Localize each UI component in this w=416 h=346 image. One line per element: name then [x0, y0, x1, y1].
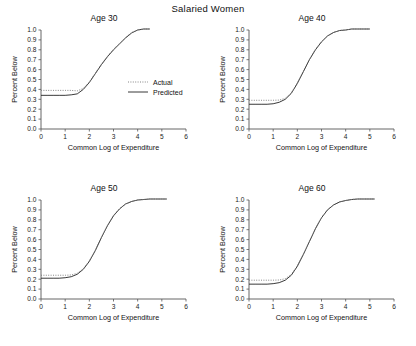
y-tick-label: 0.3	[27, 96, 36, 103]
y-tick-label: 0.2	[235, 106, 244, 113]
series-line-actual	[249, 29, 370, 100]
y-tick-label: 0.1	[235, 285, 244, 292]
x-tick-label: 4	[136, 133, 140, 140]
y-tick-label: 0.5	[235, 246, 244, 253]
x-tick-label: 5	[368, 133, 372, 140]
y-tick-label: 0.6	[235, 236, 244, 243]
x-tick-label: 1	[271, 303, 275, 310]
y-tick-label: 0.9	[235, 36, 244, 43]
x-tick-label: 1	[63, 303, 67, 310]
y-tick-label: 0.5	[27, 76, 36, 83]
y-tick-label: 0.1	[235, 115, 244, 122]
y-tick-label: 0.7	[27, 226, 36, 233]
y-axis-title: Percent Below	[10, 226, 19, 273]
x-tick-label: 0	[247, 133, 251, 140]
x-tick-label: 3	[112, 133, 116, 140]
x-tick-label: 6	[184, 133, 188, 140]
figure-salaried-women: Salaried Women Age 30 0.00.10.20.30.40.5…	[0, 0, 416, 346]
y-tick-label: 0.5	[235, 76, 244, 83]
y-tick-label: 0.2	[235, 276, 244, 283]
y-tick-label: 1.0	[27, 26, 36, 33]
y-tick-label: 0.9	[27, 36, 36, 43]
y-tick-label: 0.4	[27, 86, 36, 93]
x-tick-label: 2	[87, 303, 91, 310]
y-tick-label: 1.0	[235, 26, 244, 33]
y-tick-label: 0.2	[27, 106, 36, 113]
chart-panel-age-40: Age 40 0.00.10.20.30.40.50.60.70.80.91.0…	[208, 0, 416, 173]
x-tick-label: 3	[112, 303, 116, 310]
x-tick-label: 6	[184, 303, 188, 310]
series-line-predicted	[41, 199, 167, 278]
y-tick-label: 0.4	[235, 256, 244, 263]
y-tick-label: 0.1	[27, 285, 36, 292]
series-line-predicted	[41, 29, 150, 95]
y-tick-label: 0.7	[27, 56, 36, 63]
y-tick-label: 0.8	[27, 46, 36, 53]
x-tick-label: 5	[368, 303, 372, 310]
y-tick-label: 0.0	[235, 125, 244, 132]
y-tick-label: 0.5	[27, 246, 36, 253]
x-tick-label: 2	[295, 133, 299, 140]
x-tick-label: 5	[160, 303, 164, 310]
y-axis-title: Percent Below	[10, 56, 19, 103]
y-tick-label: 1.0	[235, 196, 244, 203]
series-line-actual	[249, 199, 375, 280]
x-tick-label: 6	[392, 303, 396, 310]
y-tick-label: 0.6	[235, 66, 244, 73]
y-tick-label: 0.4	[27, 256, 36, 263]
x-tick-label: 1	[271, 133, 275, 140]
y-tick-label: 0.8	[235, 216, 244, 223]
plot-area: 0.00.10.20.30.40.50.60.70.80.91.00123456…	[0, 173, 208, 346]
y-tick-label: 0.3	[235, 96, 244, 103]
x-tick-label: 4	[344, 133, 348, 140]
y-axis-title: Percent Below	[218, 56, 227, 103]
x-tick-label: 4	[344, 303, 348, 310]
plot-area: 0.00.10.20.30.40.50.60.70.80.91.00123456…	[208, 173, 416, 346]
y-tick-label: 0.0	[27, 125, 36, 132]
y-tick-label: 0.7	[235, 56, 244, 63]
legend-label-predicted: Predicted	[153, 89, 183, 96]
x-tick-label: 2	[295, 303, 299, 310]
x-tick-label: 0	[39, 303, 43, 310]
y-axis-title: Percent Below	[218, 226, 227, 273]
x-axis-title: Common Log of Expenditure	[276, 313, 368, 322]
x-tick-label: 1	[63, 133, 67, 140]
y-tick-label: 0.0	[27, 295, 36, 302]
plot-area: 0.00.10.20.30.40.50.60.70.80.91.00123456…	[0, 0, 208, 173]
y-tick-label: 0.0	[235, 295, 244, 302]
chart-panel-age-50: Age 50 0.00.10.20.30.40.50.60.70.80.91.0…	[0, 173, 208, 346]
y-tick-label: 0.9	[27, 206, 36, 213]
series-line-predicted	[249, 199, 375, 284]
series-line-actual	[41, 199, 167, 275]
y-tick-label: 0.6	[27, 66, 36, 73]
y-tick-label: 1.0	[27, 196, 36, 203]
chart-panel-age-30: Age 30 0.00.10.20.30.40.50.60.70.80.91.0…	[0, 0, 208, 173]
plot-area: 0.00.10.20.30.40.50.60.70.80.91.00123456…	[208, 0, 416, 173]
y-tick-label: 0.3	[235, 266, 244, 273]
chart-panel-age-60: Age 60 0.00.10.20.30.40.50.60.70.80.91.0…	[208, 173, 416, 346]
x-tick-label: 6	[392, 133, 396, 140]
x-tick-label: 2	[87, 133, 91, 140]
x-axis-title: Common Log of Expenditure	[68, 313, 160, 322]
y-tick-label: 0.8	[27, 216, 36, 223]
y-tick-label: 0.8	[235, 46, 244, 53]
y-tick-label: 0.7	[235, 226, 244, 233]
x-axis-title: Common Log of Expenditure	[68, 143, 160, 152]
series-line-predicted	[249, 29, 370, 104]
x-tick-label: 5	[160, 133, 164, 140]
x-axis-title: Common Log of Expenditure	[276, 143, 368, 152]
y-tick-label: 0.6	[27, 236, 36, 243]
x-tick-label: 0	[39, 133, 43, 140]
x-tick-label: 3	[320, 303, 324, 310]
y-tick-label: 0.2	[27, 276, 36, 283]
y-tick-label: 0.3	[27, 266, 36, 273]
y-tick-label: 0.1	[27, 115, 36, 122]
legend-label-actual: Actual	[153, 79, 173, 86]
y-tick-label: 0.9	[235, 206, 244, 213]
x-tick-label: 3	[320, 133, 324, 140]
x-tick-label: 4	[136, 303, 140, 310]
x-tick-label: 0	[247, 303, 251, 310]
y-tick-label: 0.4	[235, 86, 244, 93]
